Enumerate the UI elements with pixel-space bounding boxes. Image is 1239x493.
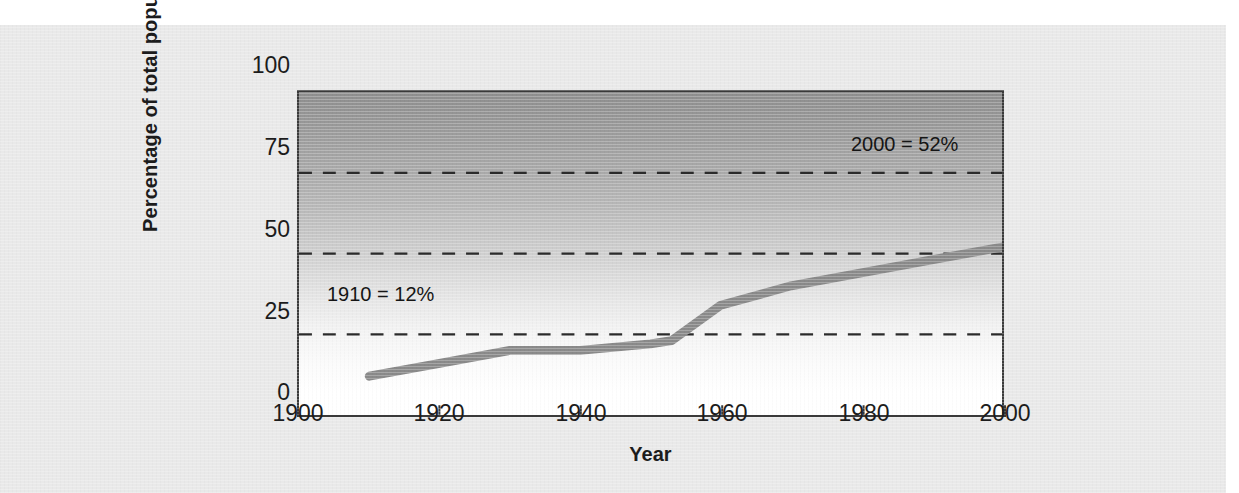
x-tick-1960: 1960: [677, 402, 767, 425]
annotation-1910-value: 1910 = 12%: [327, 284, 434, 304]
annotation-2000-value: 2000 = 52%: [851, 134, 958, 154]
x-tick-1920: 1920: [394, 402, 484, 425]
x-tick-1980: 1980: [819, 402, 909, 425]
x-tick-2000: 2000: [960, 402, 1050, 425]
x-axis-title: Year: [297, 443, 1004, 466]
x-tick-1900: 1900: [253, 402, 343, 425]
x-tick-labels: 1900 1920 1940 1960 1980 2000: [0, 0, 1239, 493]
x-tick-1940: 1940: [536, 402, 626, 425]
